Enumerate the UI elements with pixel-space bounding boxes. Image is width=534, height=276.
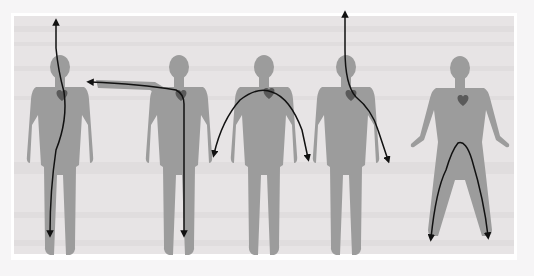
current-paths-diagram — [0, 0, 534, 276]
diagram-stage — [0, 0, 534, 276]
